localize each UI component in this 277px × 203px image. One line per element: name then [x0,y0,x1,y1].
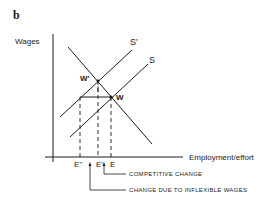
panel-label: b [13,9,20,21]
supply-curve-shifted [60,50,132,117]
tick-e-prime: E' [96,161,103,169]
point-w-label: W [116,94,124,102]
point-w-prime-label: W' [80,75,89,83]
arrow-up-icon [89,162,92,166]
supply-label: S [149,56,155,65]
tick-e: E [110,161,115,169]
tick-e-double-prime: E'' [74,161,82,169]
demand-curve [68,47,152,144]
competitive-change-note: COMPETITIVE CHANGE [129,171,202,177]
point-w [109,95,112,98]
inflexible-wages-note: CHANGE DUE TO INFLEXIBLE WAGES [129,187,247,193]
y-axis-label: Wages [15,38,40,46]
point-w-prime [97,80,100,83]
x-axis-label: Employment/effort [189,154,254,162]
supply-shifted-label: S' [130,38,138,47]
